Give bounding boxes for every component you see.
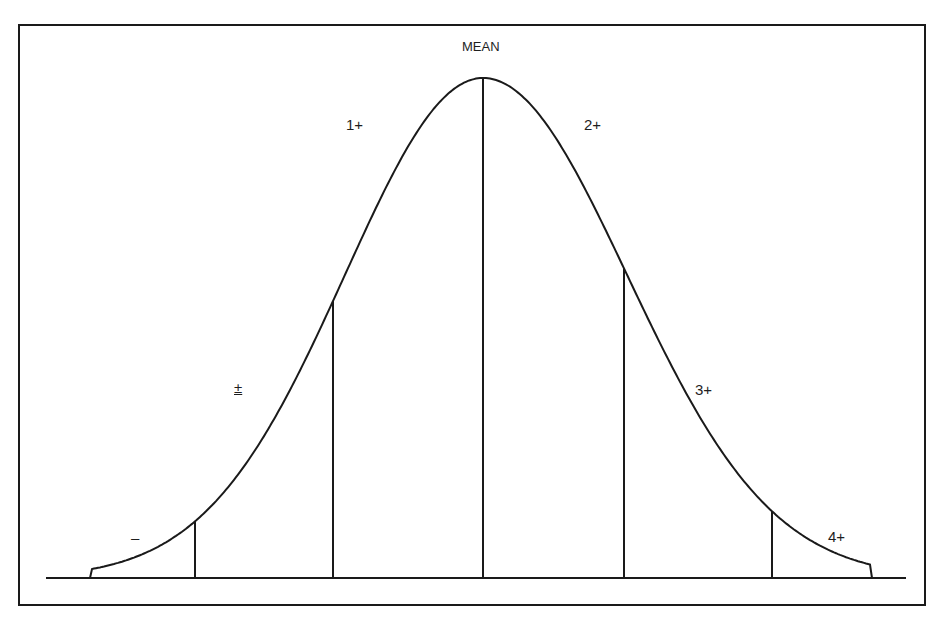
region-label-3plus: 3+ [695,382,712,397]
region-label-4plus: 4+ [828,529,845,544]
region-label-2plus: 2+ [584,117,601,132]
region-label-plus-minus: ± [234,380,242,395]
bell-curve [90,78,872,578]
bell-curve-diagram [0,0,943,625]
region-label-1plus: 1+ [346,117,363,132]
sd-divider-lines [195,78,772,578]
mean-label: MEAN [462,40,500,53]
region-label-negative: – [131,530,139,545]
